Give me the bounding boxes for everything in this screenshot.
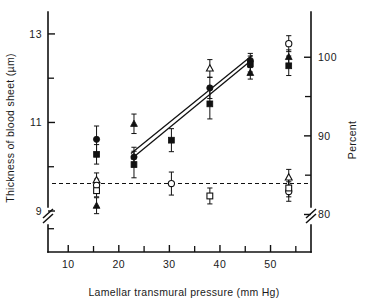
marker-open-circle — [168, 180, 174, 186]
x-axis-tick-label: 30 — [163, 258, 176, 270]
marker-open-triangle — [285, 174, 292, 180]
marker-filled-square — [286, 63, 292, 69]
figure-container: 9111380901001020304050Lamellar transmura… — [0, 0, 369, 306]
y2-axis-tick-label: 80 — [318, 208, 331, 220]
marker-filled-circle — [207, 85, 213, 91]
y-axis-title: Thickness of blood sheet (µm) — [4, 53, 16, 203]
y2-axis-break-mark — [306, 209, 316, 218]
marker-filled-triangle — [93, 202, 100, 208]
y-axis-break-mark — [43, 214, 53, 223]
marker-open-square — [286, 185, 292, 191]
marker-open-square — [207, 193, 213, 199]
y2-axis-break-mark — [306, 214, 316, 223]
regression-line-upper — [131, 55, 252, 153]
marker-filled-square — [169, 137, 175, 143]
marker-filled-triangle — [131, 120, 138, 126]
x-axis-tick-label: 40 — [214, 258, 227, 270]
x-axis-tick-label: 10 — [62, 258, 75, 270]
marker-filled-square — [131, 162, 137, 168]
marker-open-triangle — [206, 65, 213, 71]
scatter-plot-svg: 9111380901001020304050Lamellar transmura… — [0, 0, 369, 306]
marker-open-square — [94, 188, 100, 194]
y-axis-tick-label: 13 — [29, 28, 42, 40]
y-axis-tick-label: 11 — [30, 116, 42, 128]
x-axis-tick-label: 50 — [264, 258, 277, 270]
marker-filled-circle — [131, 154, 137, 160]
y-axis-tick-label: 9 — [36, 205, 42, 217]
y2-axis-tick-label: 90 — [318, 130, 331, 142]
x-axis-title: Lamellar transmural pressure (mm Hg) — [88, 286, 279, 298]
marker-filled-circle — [93, 136, 99, 142]
y2-axis-title: Percent — [346, 121, 358, 159]
marker-open-circle — [286, 41, 292, 47]
x-axis-tick-label: 20 — [112, 258, 125, 270]
regression-line-lower — [131, 60, 252, 160]
y2-axis-tick-label: 100 — [318, 51, 337, 63]
marker-filled-square — [247, 61, 253, 67]
marker-filled-square — [94, 151, 100, 157]
marker-filled-square — [207, 101, 213, 107]
